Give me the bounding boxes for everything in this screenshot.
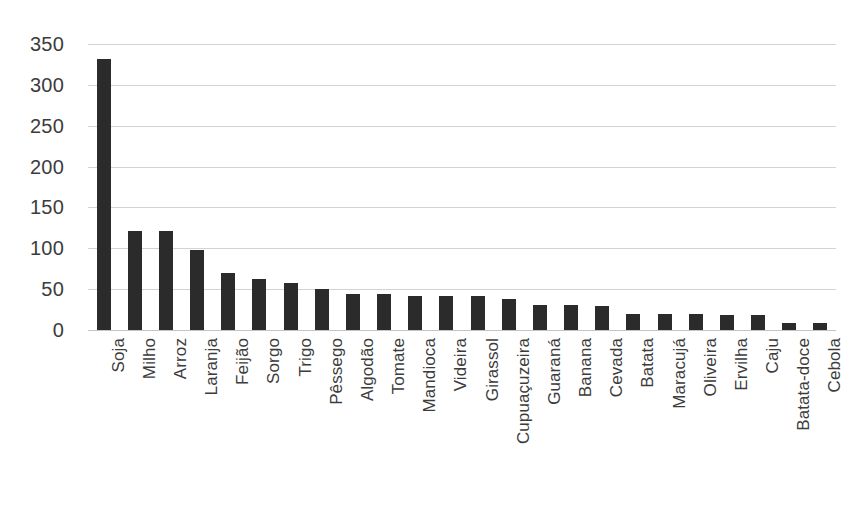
bar — [439, 296, 453, 330]
bar — [284, 283, 298, 330]
x-axis: SojaMilhoArrozLaranjaFeijãoSorgoTrigoPês… — [88, 330, 836, 510]
bar — [502, 299, 516, 330]
bar — [751, 315, 765, 330]
bar — [564, 305, 578, 330]
x-tick-label: Batata — [639, 338, 656, 388]
x-tick-label: Tomate — [390, 338, 407, 394]
x-tick-label: Caju — [764, 338, 781, 373]
bar — [377, 294, 391, 330]
bar — [97, 59, 111, 330]
x-tick-label: Feijão — [234, 338, 251, 385]
x-tick-label: Laranja — [203, 338, 220, 395]
x-tick-label: Cupuaçuzeira — [515, 338, 532, 444]
x-tick-label: Videira — [452, 338, 469, 391]
x-tick-label: Sorgo — [265, 338, 282, 384]
x-tick-label: Soja — [110, 338, 127, 372]
y-tick-label: 200 — [30, 157, 64, 177]
x-tick-label: Oliveira — [702, 338, 719, 396]
bar — [252, 279, 266, 330]
y-tick-label: 50 — [41, 279, 64, 299]
x-tick-label: Maracujá — [671, 338, 688, 409]
bar — [658, 314, 672, 330]
bar — [595, 306, 609, 330]
x-tick-label: Batata-doce — [795, 338, 812, 431]
x-tick-label: Guaraná — [546, 338, 563, 405]
bar — [533, 305, 547, 330]
y-axis: 050100150200250300350 — [0, 44, 76, 330]
bar — [408, 296, 422, 330]
x-tick-label: Girassol — [484, 338, 501, 401]
x-tick-label: Algodão — [359, 338, 376, 401]
y-tick-label: 350 — [30, 34, 64, 54]
plot-area — [88, 44, 836, 330]
bar — [221, 273, 235, 330]
y-tick-label: 0 — [53, 320, 64, 340]
x-tick-label: Pêssego — [328, 338, 345, 405]
bar — [720, 315, 734, 330]
bar-chart: 050100150200250300350 SojaMilhoArrozLara… — [0, 0, 852, 516]
x-tick-label: Cevada — [608, 338, 625, 397]
bar — [128, 231, 142, 330]
bar — [315, 289, 329, 330]
x-tick-label: Arroz — [172, 338, 189, 379]
y-tick-label: 250 — [30, 116, 64, 136]
bar — [159, 231, 173, 330]
bar — [471, 296, 485, 330]
x-tick-label: Cebola — [826, 338, 843, 392]
y-tick-label: 300 — [30, 75, 64, 95]
bar — [626, 314, 640, 330]
x-tick-label: Milho — [141, 338, 158, 379]
x-tick-label: Ervilha — [733, 338, 750, 391]
y-tick-label: 100 — [30, 238, 64, 258]
bars-layer — [88, 44, 836, 330]
x-tick-label: Trigo — [297, 338, 314, 377]
bar — [346, 294, 360, 330]
x-tick-label: Mandioca — [421, 338, 438, 413]
bar — [689, 314, 703, 330]
bar — [190, 250, 204, 330]
x-tick-label: Banana — [577, 338, 594, 397]
y-tick-label: 150 — [30, 197, 64, 217]
